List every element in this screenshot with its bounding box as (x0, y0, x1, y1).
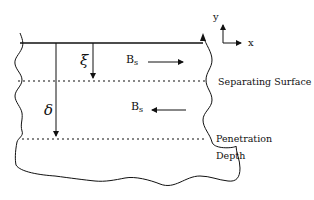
bs-bottom-label: Bs (131, 101, 143, 114)
right-boundary (203, 36, 236, 148)
separating-surface-label: Separating Surface (218, 77, 311, 87)
bs-top-base: B (126, 53, 134, 66)
penetration-label: Penetration (216, 134, 272, 144)
y-axis-label: y (213, 12, 219, 22)
bs-bottom-base: B (131, 100, 139, 113)
bottom-boundary (55, 146, 240, 185)
x-axis-label: x (248, 38, 254, 48)
xi-label: ξ (80, 53, 88, 68)
depth-label: Depth (216, 151, 245, 161)
bs-top-label: Bs (126, 54, 138, 67)
diagram-canvas (0, 0, 314, 200)
bs-bottom-sub: s (139, 105, 143, 114)
surface-corner-arrow-icon (200, 33, 206, 41)
bs-top-sub: s (134, 58, 138, 67)
delta-label: δ (44, 103, 53, 118)
